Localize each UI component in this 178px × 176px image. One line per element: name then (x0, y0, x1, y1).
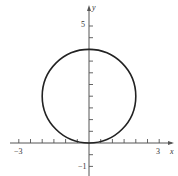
x-tick-label-min: −3 (14, 147, 23, 156)
x-axis-arrow-icon (168, 141, 174, 145)
y-axis-label: y (91, 3, 96, 12)
y-axis-arrow-icon (87, 5, 91, 11)
y-tick-label-min: −1 (78, 162, 87, 171)
y-axis-ticks (89, 26, 93, 166)
x-axis (10, 139, 174, 145)
x-axis-label: x (169, 147, 174, 156)
x-tick-label-max: 3 (156, 147, 160, 156)
y-axis (87, 5, 93, 176)
y-tick-label-max: 5 (81, 20, 85, 29)
circle-chart: −3 3 x 5 −1 y (0, 0, 178, 176)
